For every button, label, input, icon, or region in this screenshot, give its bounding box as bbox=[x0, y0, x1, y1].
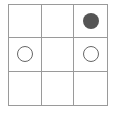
hollow-circle-icon bbox=[83, 46, 99, 62]
board-cell-r2-c0[interactable] bbox=[9, 72, 42, 105]
hollow-circle-icon bbox=[17, 46, 33, 62]
board-cell-r0-c1[interactable] bbox=[42, 5, 75, 38]
board-cell-r1-c0[interactable] bbox=[9, 38, 42, 71]
game-board bbox=[8, 4, 108, 106]
board-cell-r1-c2[interactable] bbox=[74, 38, 107, 71]
board-cell-r1-c1[interactable] bbox=[42, 38, 75, 71]
board-cell-r0-c2[interactable] bbox=[74, 5, 107, 38]
board-cell-r2-c1[interactable] bbox=[42, 72, 75, 105]
board-cell-r0-c0[interactable] bbox=[9, 5, 42, 38]
filled-circle-icon bbox=[83, 13, 99, 29]
board-cell-r2-c2[interactable] bbox=[74, 72, 107, 105]
